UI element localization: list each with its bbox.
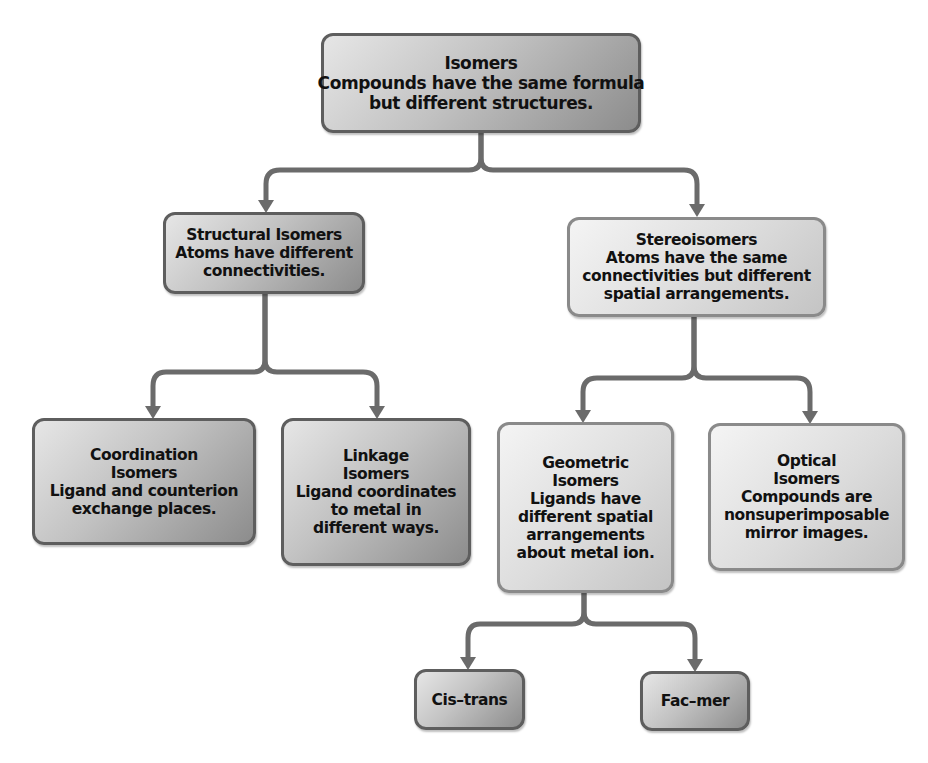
connector-geometric-facmer (584, 593, 695, 661)
node-optical-desc-2: nonsuperimposable (724, 506, 889, 524)
node-stereo-desc-3: spatial arrangements. (604, 285, 789, 303)
node-isomers-desc-2: but different structures. (369, 93, 593, 113)
node-stereo-desc-1: Atoms have the same (606, 249, 787, 267)
node-optical-desc-1: Compounds are (741, 488, 872, 506)
arrowhead-stereo (689, 204, 705, 217)
node-isomers-desc-1: Compounds have the same formula (318, 73, 645, 93)
node-stereo-desc-2: connectivities but different (582, 267, 810, 285)
node-structural-isomers: Structural Isomers Atoms have different … (163, 212, 365, 294)
connector-stereo-optical (694, 316, 810, 413)
node-geometric-desc-2: different spatial (518, 508, 653, 526)
node-isomers-title: Isomers (444, 53, 517, 73)
connector-isomers-stereo (481, 133, 697, 206)
connector-stereo-geometric (583, 316, 694, 412)
node-structural-desc-1: Atoms have different (175, 244, 352, 262)
node-isomers: Isomers Compounds have the same formula … (321, 33, 641, 133)
node-geometric-title-1: Geometric (542, 454, 629, 472)
node-coordination-desc-2: exchange places. (72, 500, 217, 518)
node-linkage-title-1: Linkage (343, 447, 409, 465)
node-structural-desc-2: connectivities. (203, 262, 325, 280)
node-optical-title-1: Optical (777, 452, 836, 470)
node-coordination-desc-1: Ligand and counterion (50, 482, 238, 500)
connector-structural-linkage (265, 293, 377, 408)
node-linkage-desc-2: to metal in (331, 501, 422, 519)
node-geometric-desc-4: about metal ion. (517, 544, 655, 562)
node-stereoisomers: Stereoisomers Atoms have the same connec… (567, 217, 826, 317)
node-optical-desc-3: mirror images. (745, 524, 869, 542)
node-optical-isomers: Optical Isomers Compounds are nonsuperim… (708, 423, 905, 571)
node-fac-mer-title: Fac–mer (661, 692, 730, 710)
node-coordination-title-1: Coordination (90, 446, 198, 464)
node-linkage-desc-1: Ligand coordinates (296, 483, 456, 501)
node-geometric-desc-3: arrangements (526, 526, 644, 544)
node-coordination-title-2: Isomers (111, 464, 177, 482)
node-stereo-title: Stereoisomers (636, 231, 757, 249)
isomer-classification-diagram: Isomers Compounds have the same formula … (0, 0, 928, 763)
connector-structural-coordination (153, 293, 265, 408)
connector-isomers-structural (266, 133, 481, 202)
connector-geometric-cistrans (468, 593, 584, 659)
node-cis-trans: Cis–trans (414, 669, 525, 730)
node-linkage-title-2: Isomers (343, 465, 409, 483)
node-linkage-isomers: Linkage Isomers Ligand coordinates to me… (281, 418, 471, 566)
node-cis-trans-title: Cis–trans (432, 691, 508, 709)
node-coordination-isomers: Coordination Isomers Ligand and counteri… (32, 418, 256, 545)
node-geometric-title-2: Isomers (552, 472, 618, 490)
node-linkage-desc-3: different ways. (313, 519, 439, 537)
node-structural-title: Structural Isomers (186, 226, 342, 244)
node-fac-mer: Fac–mer (640, 671, 750, 731)
node-geometric-isomers: Geometric Isomers Ligands have different… (497, 422, 674, 593)
node-optical-title-2: Isomers (773, 470, 839, 488)
node-geometric-desc-1: Ligands have (530, 490, 641, 508)
